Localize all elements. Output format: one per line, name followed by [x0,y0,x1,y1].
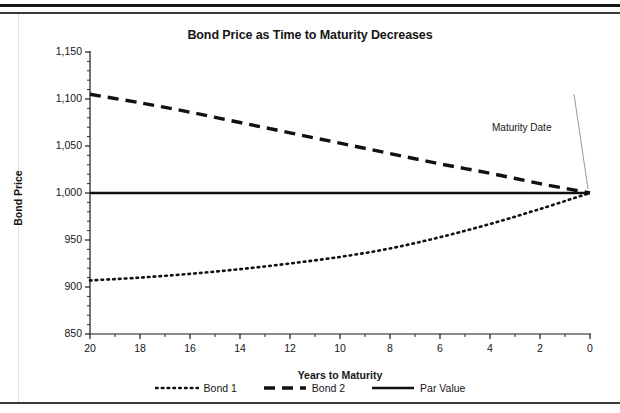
maturity-date-annotation: Maturity Date [492,122,551,133]
chart-legend: Bond 1Bond 2Par Value [0,382,620,394]
legend-label: Bond 2 [312,382,345,394]
page-rule-top-thick [0,4,620,7]
axis-layer [85,51,591,339]
legend-swatch-solid [371,382,415,394]
page-rule-bottom [0,402,620,404]
series-line-bond-1 [90,193,590,280]
annotation-leader [574,94,588,189]
legend-swatch-dashed [263,382,307,394]
legend-item-par-value[interactable]: Par Value [371,382,465,394]
series-line-bond-2 [90,94,590,193]
legend-item-bond-2[interactable]: Bond 2 [263,382,345,394]
plot-canvas [0,14,620,402]
annotation-leader-line [574,94,588,189]
legend-label: Par Value [420,382,465,394]
chart-container: Bond Price as Time to Maturity Decreases… [0,14,620,402]
legend-label: Bond 1 [204,382,237,394]
legend-swatch-dotted [155,382,199,394]
legend-item-bond-1[interactable]: Bond 1 [155,382,237,394]
